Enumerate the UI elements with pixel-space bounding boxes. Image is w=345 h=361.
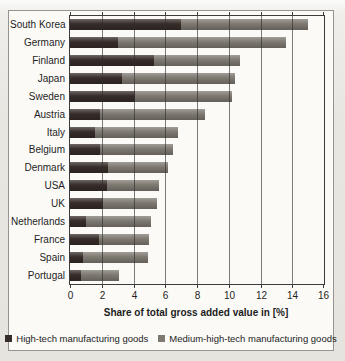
bar-segment — [70, 73, 122, 84]
legend-label: Medium-high-tech manufacturing goods — [169, 333, 336, 344]
x-tick-label: 8 — [195, 290, 201, 301]
legend-swatch-icon — [5, 335, 12, 342]
bar-stack — [70, 216, 151, 227]
category-label: Austria — [10, 109, 65, 120]
bar-segment — [70, 216, 86, 227]
bar-stack — [70, 234, 149, 245]
x-tick-label: 16 — [318, 290, 329, 301]
bar-stack — [70, 127, 178, 138]
bar-segment — [70, 37, 118, 48]
axis-tick — [229, 284, 230, 288]
gridline — [261, 16, 262, 284]
bar-segment — [70, 270, 81, 281]
category-label: Spain — [10, 252, 65, 263]
legend: High-tech manufacturing goodsMedium-high… — [9, 333, 333, 344]
bar-stack — [70, 55, 240, 66]
x-tick-label: 2 — [100, 290, 106, 301]
bar-segment — [103, 198, 157, 209]
legend-item: Medium-high-tech manufacturing goods — [158, 333, 336, 344]
bar-segment — [181, 19, 308, 30]
axis-tick — [261, 284, 262, 288]
legend-item: High-tech manufacturing goods — [5, 333, 148, 344]
bar-stack — [70, 198, 157, 209]
category-label: Italy — [10, 127, 65, 138]
bar-segment — [122, 73, 235, 84]
category-label: UK — [10, 198, 65, 209]
axis-tick — [134, 284, 135, 288]
axis-tick — [70, 284, 71, 288]
gridline — [197, 16, 198, 284]
gridline — [102, 16, 103, 284]
bar-segment — [99, 234, 150, 245]
bar-segment — [70, 144, 100, 155]
bar-segment — [70, 234, 99, 245]
bar-stack — [70, 73, 235, 84]
category-label: Sweden — [10, 91, 65, 102]
x-tick-label: 6 — [163, 290, 169, 301]
legend-swatch-icon — [158, 335, 165, 342]
gridline — [229, 16, 230, 284]
gridline — [134, 16, 135, 284]
category-label: USA — [10, 180, 65, 191]
category-label: Netherlands — [10, 216, 65, 227]
category-label: Finland — [10, 55, 65, 66]
x-axis-title: Share of total gross added value in [%] — [69, 307, 323, 318]
bar-segment — [70, 198, 103, 209]
axis-tick — [323, 284, 324, 288]
gridline — [292, 16, 293, 284]
bar-stack — [70, 252, 148, 263]
chart-frame: 0246810121416South KoreaGermanyFinlandJa… — [8, 10, 334, 351]
bar-segment — [86, 216, 151, 227]
axis-tick — [165, 284, 166, 288]
axis-tick — [102, 284, 103, 288]
bar-segment — [70, 109, 100, 120]
category-label: Japan — [10, 73, 65, 84]
bar-segment — [81, 270, 119, 281]
bar-stack — [70, 162, 168, 173]
category-label: Portugal — [10, 270, 65, 281]
bar-stack — [70, 270, 119, 281]
bar-segment — [83, 252, 148, 263]
x-tick-label: 4 — [132, 290, 138, 301]
x-tick-label: 12 — [256, 290, 267, 301]
bar-segment — [108, 162, 168, 173]
bar-segment — [70, 127, 95, 138]
bar-segment — [100, 144, 173, 155]
bar-segment — [135, 91, 232, 102]
x-tick-label: 0 — [68, 290, 74, 301]
category-label: France — [10, 234, 65, 245]
legend-label: High-tech manufacturing goods — [16, 333, 148, 344]
x-tick-label: 14 — [287, 290, 298, 301]
bar-segment — [100, 109, 205, 120]
bar-stack — [70, 180, 159, 191]
gridline — [165, 16, 166, 284]
bar-stack — [70, 144, 173, 155]
axis-tick — [292, 284, 293, 288]
bar-segment — [70, 55, 154, 66]
plot-area: 0246810121416South KoreaGermanyFinlandJa… — [69, 15, 325, 285]
bar-stack — [70, 19, 308, 30]
bar-segment — [70, 252, 83, 263]
axis-tick — [197, 284, 198, 288]
bar-stack — [70, 109, 205, 120]
category-label: Denmark — [10, 162, 65, 173]
bar-segment — [107, 180, 159, 191]
category-label: Germany — [10, 37, 65, 48]
category-label: Belgium — [10, 144, 65, 155]
x-tick-label: 10 — [224, 290, 235, 301]
bar-stack — [70, 91, 232, 102]
category-label: South Korea — [10, 19, 65, 30]
